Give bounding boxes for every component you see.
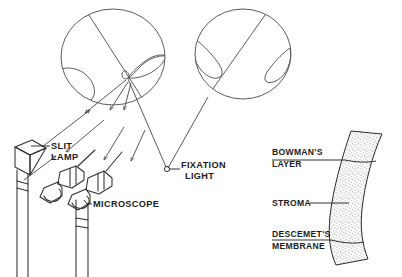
microscope-right-lens-ring: [72, 196, 89, 208]
right-eye-axis-line: [205, 8, 270, 100]
slit-lamp-post-band-top: [17, 181, 28, 184]
microscope-left-lens-ring: [44, 189, 61, 201]
fixation-ray-from-right-eye: [168, 97, 208, 168]
cornea-stroma-fill: [329, 131, 382, 265]
right-eye-iris-sweep-right: [265, 48, 291, 83]
microscope-left-arm: [78, 150, 95, 166]
corneal-layers-diagram: BOWMAN'S LAYER STROMA DESCEMET'S MEMBRAN…: [272, 131, 382, 265]
microscope-column-band-bottom: [76, 226, 88, 228]
arrow-eye-to-slit-lamp: [85, 80, 126, 113]
fixation-light-label-line2: LIGHT: [185, 171, 214, 181]
slit-lamp-beam-face: [30, 148, 46, 175]
microscope-left-barrel: [58, 166, 84, 188]
fixation-light-label-line1: FIXATION: [181, 160, 226, 170]
arrow-eye-to-microscope-right-lower: [131, 130, 145, 161]
slit-lamp-label-line2: LAMP: [51, 152, 78, 162]
right-eye-globe-outline: [195, 9, 291, 99]
slit-lamp-aperture-top: [15, 140, 46, 155]
fixation-light-rays: [128, 79, 208, 168]
bowmans-layer-label-line1: BOWMAN'S: [272, 147, 323, 157]
arrow-eye-to-microscope-left-lower: [104, 127, 124, 160]
right-eye-iris-sweep-left: [194, 40, 222, 78]
descemets-membrane-label-line2: MEMBRANE: [272, 241, 325, 251]
anatomical-figure: SLIT LAMP MICROSCOPE FIXATION LIGHT: [0, 0, 402, 277]
slit-lamp-examination-diagram: SLIT LAMP MICROSCOPE FIXATION LIGHT: [15, 8, 291, 277]
microscope-label-group: MICROSCOPE: [84, 199, 159, 209]
slit-lamp-label-line1: SLIT: [51, 141, 72, 151]
fixation-light-marker-icon: [164, 166, 169, 171]
ray-arrows: [24, 80, 145, 180]
fixation-light-group: FIXATION LIGHT: [164, 160, 226, 181]
microscope-device: [40, 150, 122, 277]
left-eye-iris-sweep-left: [61, 68, 94, 101]
microscope-leader-hook: [84, 200, 87, 204]
left-eye-axis-line: [87, 12, 146, 104]
stroma-label: STROMA: [272, 198, 311, 208]
left-eye-iris-fold: [128, 56, 166, 78]
microscope-column-band-top: [76, 218, 88, 220]
slit-lamp-post-band-bottom: [17, 188, 28, 191]
microscope-right-barrel: [86, 171, 112, 194]
descemets-membrane-label-line1: DESCEMET'S: [272, 229, 331, 239]
microscope-label: MICROSCOPE: [93, 199, 159, 209]
fixation-ray-from-left-eye: [128, 79, 166, 167]
microscope-right-arm: [106, 152, 122, 171]
right-eye: [194, 8, 291, 100]
slit-lamp-device: [15, 140, 46, 277]
bowmans-layer-label-line2: LAYER: [272, 159, 302, 169]
figure-root: SLIT LAMP MICROSCOPE FIXATION LIGHT: [0, 0, 402, 277]
